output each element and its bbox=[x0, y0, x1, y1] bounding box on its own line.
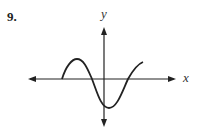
y-axis-up-arrow bbox=[101, 27, 107, 35]
y-axis-down-arrow bbox=[101, 119, 107, 127]
graph bbox=[0, 0, 204, 134]
x-axis-left-arrow bbox=[28, 76, 36, 82]
sine-curve bbox=[62, 59, 143, 108]
x-axis-right-arrow bbox=[168, 76, 176, 82]
